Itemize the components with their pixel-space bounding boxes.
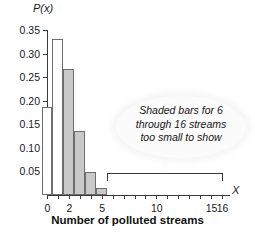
x-tick (113, 195, 114, 199)
x-tick (80, 195, 81, 199)
histogram-bar (85, 172, 96, 195)
y-tick-label: 0.30 (20, 48, 40, 60)
x-tick (124, 195, 125, 199)
y-tick-label: 0.35 (20, 24, 40, 36)
note-line: Shaded bars for 6 (116, 104, 246, 118)
y-tick: 0.35 (43, 30, 47, 31)
x-tick (200, 195, 201, 199)
y-tick-label: 0.10 (20, 142, 40, 154)
histogram-bar (96, 188, 107, 195)
x-tick: 10 (156, 195, 157, 199)
x-tick-label: 0 (45, 202, 51, 214)
x-axis-variable-label: X (232, 184, 239, 196)
histogram-bar (52, 39, 63, 195)
bracket-left-end (107, 173, 108, 181)
histogram-bar (42, 107, 53, 195)
y-tick-label: 0.20 (20, 95, 40, 107)
y-tick-label: 0.15 (20, 118, 40, 130)
histogram-bar (74, 131, 85, 195)
x-tick: 5 (102, 195, 103, 199)
shaded-bars-note: Shaded bars for 6through 16 streamstoo s… (116, 104, 246, 145)
x-tick-label: 16 (217, 202, 229, 214)
note-line: too small to show (116, 131, 246, 145)
x-tick (178, 195, 179, 199)
y-tick-label: 0.25 (20, 71, 40, 83)
x-tick (167, 195, 168, 199)
bracket-span (107, 173, 222, 174)
x-tick (189, 195, 190, 199)
x-tick (135, 195, 136, 199)
x-tick (91, 195, 92, 199)
y-tick: 0.20 (43, 101, 47, 102)
y-tick-label: 0.05 (20, 165, 40, 177)
x-tick: 0 (47, 195, 48, 199)
x-tick: 15 (211, 195, 212, 199)
y-tick: 0.30 (43, 54, 47, 55)
x-tick (58, 195, 59, 199)
note-line: through 16 streams (116, 118, 246, 132)
x-tick (145, 195, 146, 199)
x-axis-title: Number of polluted streams (0, 214, 255, 226)
x-tick-label: 10 (151, 202, 163, 214)
bracket-right-end (222, 173, 223, 181)
histogram-bar (63, 69, 74, 195)
x-tick: 2 (69, 195, 70, 199)
probability-histogram-figure: P(x) 0.050.100.150.200.250.300.35 025101… (0, 0, 255, 238)
y-tick: 0.25 (43, 77, 47, 78)
x-tick: 16 (222, 195, 223, 199)
x-tick-label: 15 (206, 202, 218, 214)
x-tick-label: 2 (66, 202, 72, 214)
x-tick-label: 5 (99, 202, 105, 214)
x-axis-line (47, 195, 230, 196)
